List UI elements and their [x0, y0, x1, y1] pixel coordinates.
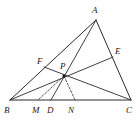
point-label-F: F: [36, 56, 43, 66]
point-label-P: P: [59, 61, 66, 71]
point-label-N: N: [67, 105, 75, 115]
point-label-A: A: [91, 5, 98, 15]
dashed-segment-PM: [38, 76, 64, 100]
point-label-M: M: [31, 105, 40, 115]
cevian-AD: [51, 20, 96, 100]
geometry-canvas: A B C E F P M D N: [0, 0, 140, 125]
point-label-E: E: [114, 46, 121, 56]
point-label-B: B: [4, 105, 10, 115]
geometry-figure: A B C E F P M D N: [0, 0, 140, 125]
point-label-C: C: [126, 105, 133, 115]
side-CA: [96, 20, 131, 100]
side-AB: [10, 20, 96, 100]
point-label-D: D: [46, 105, 54, 115]
cevian-CF: [44, 67, 131, 100]
dashed-segment-PN: [64, 76, 75, 100]
point-marker-P: [62, 74, 65, 77]
